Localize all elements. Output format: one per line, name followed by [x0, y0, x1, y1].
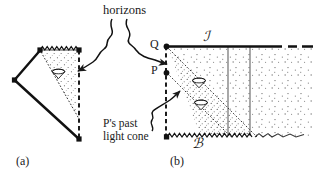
- scri-label: ℐ: [203, 29, 210, 45]
- panel-b-point-Q-dot: [164, 44, 170, 50]
- point-P-label: P: [151, 64, 158, 77]
- figure-root: horizons P's pastlight cone Q P ℐ ℬ (a) …: [0, 0, 319, 181]
- past-light-cone-label-line1: P's past: [103, 117, 137, 129]
- panel-a-vertex-bottom: [76, 136, 81, 141]
- leader-horizons-to-panel-a: [78, 19, 112, 71]
- b-surface-label: ℬ: [192, 136, 203, 152]
- horizons-label: horizons: [103, 3, 146, 17]
- panel-a-singularity-zigzag: [40, 47, 78, 50]
- panel-b-group: [164, 44, 313, 140]
- point-Q-label: Q: [150, 38, 159, 51]
- panel-b-origin-dot: [164, 134, 169, 139]
- panel-a-vertex-top-right: [76, 47, 81, 52]
- panel-a-caption: (a): [16, 155, 29, 168]
- panel-a-vertex-top-left: [37, 47, 42, 52]
- panel-b-caption: (b): [170, 155, 184, 168]
- panel-a-vertex-left: [12, 77, 17, 82]
- diagram-canvas: [0, 0, 319, 181]
- panel-a-group: [12, 47, 82, 142]
- panel-b-point-P-dot: [164, 70, 170, 76]
- leader-horizons-to-panel-b: [126, 19, 167, 64]
- past-light-cone-label: P's pastlight cone: [103, 117, 149, 143]
- panel-a-upper-left-edge: [15, 51, 41, 81]
- past-light-cone-label-line2: light cone: [103, 130, 149, 142]
